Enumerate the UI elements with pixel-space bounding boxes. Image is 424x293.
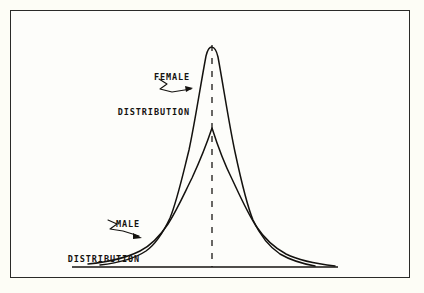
male-label-line-1: MALE — [36, 219, 140, 231]
female-distribution-label: FEMALE DISTRIBUTION — [86, 49, 190, 141]
figure-root: FEMALE DISTRIBUTION MALE DISTRIBUTION — [0, 0, 424, 293]
male-label-line-2: DISTRIBUTION — [36, 254, 140, 266]
female-label-line-2: DISTRIBUTION — [86, 107, 190, 119]
male-distribution-label: MALE DISTRIBUTION — [36, 196, 140, 288]
female-label-line-1: FEMALE — [86, 72, 190, 84]
